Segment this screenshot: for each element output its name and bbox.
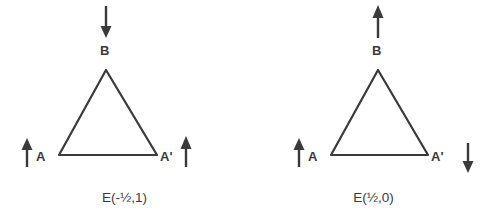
vertex-label-a: A <box>36 150 45 163</box>
vertex-label-a-prime: A' <box>160 150 172 163</box>
vertex-label-b: B <box>100 44 109 57</box>
arrow-a-up <box>294 138 305 167</box>
vertex-label-a: A <box>308 150 317 163</box>
triangle-outline <box>331 70 428 155</box>
arrow-a-up <box>22 138 33 167</box>
panel-caption: E(-½,1) <box>0 191 249 205</box>
arrow-b-down <box>101 6 112 38</box>
vertex-label-a-prime: A' <box>431 150 443 163</box>
triangle-outline <box>59 70 157 155</box>
figure-root: B A A' E(-½,1) B A <box>0 0 498 223</box>
arrow-aprime-up <box>181 136 192 167</box>
panel-caption: E(½,0) <box>249 191 498 205</box>
panel-e-minus-half-one: B A A' E(-½,1) <box>0 0 249 223</box>
arrow-b-up <box>373 5 384 38</box>
panel-e-half-zero: B A A' E(½,0) <box>249 0 498 223</box>
arrow-aprime-down <box>463 143 474 173</box>
vertex-label-b: B <box>372 44 381 57</box>
